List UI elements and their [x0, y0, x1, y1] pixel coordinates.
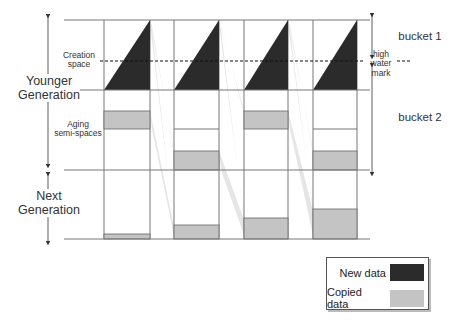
bucket-1-label: bucket 1 — [390, 30, 450, 43]
copy-path — [150, 111, 174, 235]
column-1 — [104, 20, 150, 239]
copy-path — [219, 20, 244, 114]
next-gen-copied-block — [174, 225, 219, 239]
semi-space-columns — [104, 20, 357, 239]
new-data-swatch — [390, 264, 424, 281]
aging-copied-block — [104, 111, 150, 129]
legend-label: Copied data — [327, 286, 386, 310]
creation-space-label: Creation space — [57, 51, 101, 70]
new-data-triangle — [244, 20, 288, 90]
next-gen-copied-block — [244, 218, 288, 239]
next-generation-label: Next Generation — [2, 190, 96, 218]
new-data-triangle — [104, 20, 150, 90]
legend-item-new-data: New data — [340, 264, 424, 281]
copied-data-swatch — [390, 290, 424, 307]
column-3 — [244, 20, 288, 239]
aging-copied-block — [313, 151, 357, 170]
column-2 — [174, 20, 219, 239]
column-4 — [313, 20, 357, 239]
legend-label: New data — [340, 267, 386, 279]
aging-copied-block — [174, 151, 219, 170]
next-gen-copied-block — [104, 234, 150, 239]
copy-path — [288, 111, 313, 235]
copy-path — [150, 24, 174, 228]
aging-semi-spaces-label: Aging semi-spaces — [52, 120, 104, 139]
aging-copied-block — [244, 111, 288, 129]
younger-generation-label: Younger Generation — [2, 75, 96, 103]
new-data-triangle — [174, 20, 219, 90]
legend: New data Copied data — [326, 257, 429, 310]
legend-item-copied-data: Copied data — [327, 286, 424, 310]
copy-path — [219, 151, 244, 235]
bucket-2-label: bucket 2 — [390, 111, 450, 124]
high-water-mark-label: high water mark — [364, 50, 398, 78]
copy-path — [288, 24, 313, 212]
new-data-triangle — [313, 20, 357, 90]
next-gen-copied-block — [313, 209, 357, 239]
